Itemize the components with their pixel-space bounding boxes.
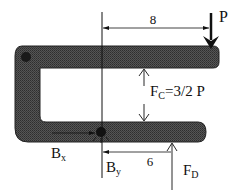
fc-label-main: F <box>150 83 158 99</box>
svg-text:FC=3/2 P: FC=3/2 P <box>150 83 205 101</box>
force-fd: FD <box>167 143 199 190</box>
fd-label-sub: D <box>191 169 198 180</box>
svg-text:Bx: Bx <box>51 145 66 163</box>
by-label-main: B <box>106 159 116 175</box>
dimension-top: 8 <box>103 12 209 30</box>
svg-text:By: By <box>106 159 121 177</box>
force-p-label: P <box>219 8 228 25</box>
free-body-diagram: 8 P FC=3/2 P Bx 6 By FD <box>0 0 235 192</box>
svg-text:FD: FD <box>183 162 199 180</box>
force-fc: FC=3/2 P <box>139 69 205 121</box>
dimension-top-label: 8 <box>150 12 157 27</box>
fd-label-main: F <box>183 162 191 178</box>
dimension-bottom-label: 6 <box>147 154 154 169</box>
bx-label-main: B <box>51 145 61 161</box>
fc-value: =3/2 P <box>165 83 205 99</box>
by-label-sub: y <box>116 166 121 177</box>
bx-label-sub: x <box>61 152 66 163</box>
top-pin <box>21 52 31 62</box>
